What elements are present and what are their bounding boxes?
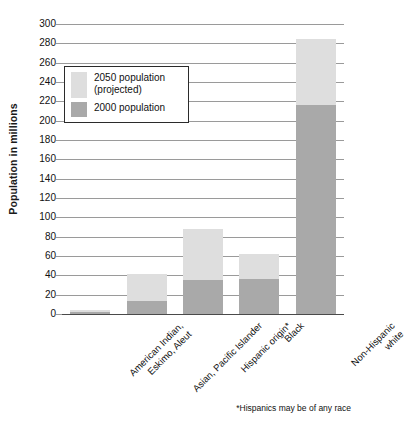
y-tick-label-60: 60: [26, 251, 56, 261]
bar-segment-projected: [127, 274, 167, 301]
bar-segment-2000: [183, 280, 223, 314]
chart-footnote: *Hispanics may be of any race: [236, 403, 351, 413]
x-axis-label: American Indian,Eskimo, Aleut: [127, 320, 194, 387]
legend-swatch-projected: [71, 72, 87, 98]
legend-label-base-line1: 2000 population: [94, 102, 165, 113]
y-tick-label-20: 20: [26, 290, 56, 300]
y-tick-label-200: 200: [26, 116, 56, 126]
chart-legend: 2050 population (projected) 2000 populat…: [64, 66, 189, 123]
y-tick-label-120: 120: [26, 193, 56, 203]
y-tick-label-180: 180: [26, 135, 56, 145]
legend-item-base: 2000 population: [71, 102, 182, 117]
legend-label-projected-line1: 2050 population: [94, 72, 165, 83]
legend-label-base: 2000 population: [94, 102, 165, 114]
bar-segment-2000: [127, 301, 167, 314]
y-tick-label-300: 300: [26, 19, 56, 29]
legend-swatch-base: [71, 102, 87, 117]
y-tick-label-220: 220: [26, 96, 56, 106]
x-axis-labels: American Indian,Eskimo, AleutAsian, Paci…: [0, 314, 363, 386]
y-tick-label-80: 80: [26, 232, 56, 242]
bar-group: [296, 39, 336, 315]
bar-segment-2000: [239, 279, 279, 314]
y-tick-label-280: 280: [26, 38, 56, 48]
bar-segment-2000: [296, 105, 336, 314]
bar-group: [239, 254, 279, 314]
y-axis-title: Population in millions: [2, 0, 24, 318]
y-tick-label-140: 140: [26, 174, 56, 184]
legend-label-projected-line2: (projected): [94, 84, 165, 96]
y-tick-label-240: 240: [26, 77, 56, 87]
legend-item-projected: 2050 population (projected): [71, 72, 182, 98]
y-axis-tick-labels: 3002802602402202001801601401201008060402…: [22, 24, 56, 314]
bar-group: [183, 229, 223, 314]
y-tick-label-100: 100: [26, 212, 56, 222]
bar-segment-projected: [183, 229, 223, 280]
bar-segment-projected: [296, 39, 336, 106]
y-tick-label-40: 40: [26, 270, 56, 280]
x-axis-label: Non-Hispanicwhite: [349, 320, 405, 377]
bar-group: [127, 274, 167, 314]
legend-label-projected: 2050 population (projected): [94, 72, 165, 96]
y-tick-label-260: 260: [26, 58, 56, 68]
y-tick-label-160: 160: [26, 154, 56, 164]
bar-segment-projected: [239, 254, 279, 279]
y-axis-title-text: Population in millions: [7, 103, 19, 214]
